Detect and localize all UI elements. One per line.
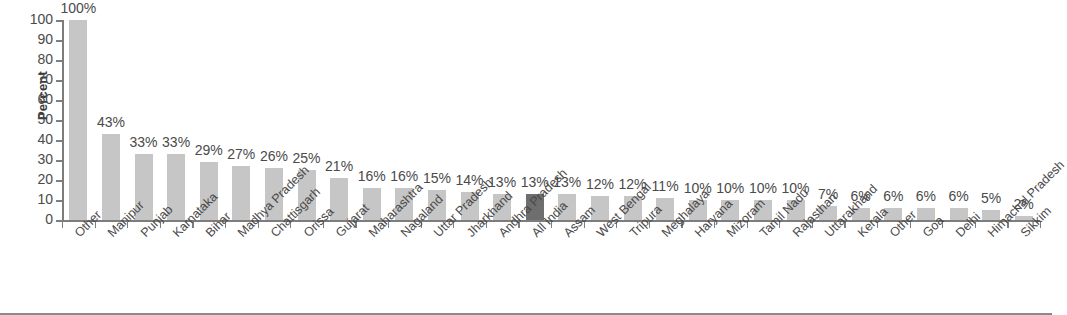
y-axis-tick-label: 30: [37, 151, 53, 167]
bar-value-label: 15%: [423, 170, 451, 186]
bar-value-label: 5%: [981, 190, 1001, 206]
y-axis-tick-label: 10: [37, 191, 53, 207]
y-axis-tick-label: 50: [37, 111, 53, 127]
y-axis-tick: [56, 60, 62, 62]
y-axis-tick: [56, 20, 62, 22]
bar: [69, 20, 87, 220]
bar-value-label: 10%: [716, 180, 744, 196]
bar-value-label: 11%: [652, 178, 679, 194]
y-axis-tick-label: 40: [37, 131, 53, 147]
y-axis-tick: [56, 140, 62, 142]
y-axis-tick: [56, 100, 62, 102]
y-axis-tick-label: 100: [30, 11, 53, 27]
bar-value-label: 26%: [260, 148, 288, 164]
y-axis-tick: [56, 160, 62, 162]
x-axis-labels: OtherManipurPunjabKarnatakaBiharMadhya P…: [62, 226, 1052, 315]
y-axis-tick-label: 80: [37, 51, 53, 67]
y-axis-line: [62, 20, 64, 221]
bar-value-label: 29%: [195, 142, 223, 158]
bar-value-label: 27%: [227, 146, 255, 162]
bar-value-label: 43%: [97, 114, 125, 130]
bar-value-label: 6%: [948, 188, 968, 204]
bar: [232, 166, 250, 220]
y-axis-tick: [56, 80, 62, 82]
y-axis-tick: [56, 120, 62, 122]
y-axis-tick-label: 20: [37, 171, 53, 187]
bar-value-label: 10%: [749, 180, 777, 196]
bar-value-label: 6%: [883, 188, 903, 204]
bar-value-label: 33%: [162, 134, 190, 150]
y-axis-tick-label: 60: [37, 91, 53, 107]
y-axis-tick-label: 70: [37, 71, 53, 87]
y-axis-tick-label: 90: [37, 31, 53, 47]
bar-value-label: 6%: [916, 188, 936, 204]
y-axis-tick: [56, 40, 62, 42]
bar-value-label: 12%: [586, 176, 614, 192]
y-axis-tick: [56, 200, 62, 202]
bar-value-label: 16%: [358, 168, 386, 184]
y-axis-tick: [56, 180, 62, 182]
bar-value-label: 33%: [129, 134, 157, 150]
bar-value-label: 21%: [325, 158, 353, 174]
bar-value-label: 100%: [60, 0, 96, 16]
y-axis-tick-label: 0: [45, 211, 53, 227]
bar: [102, 134, 120, 220]
bar-value-label: 25%: [292, 150, 320, 166]
